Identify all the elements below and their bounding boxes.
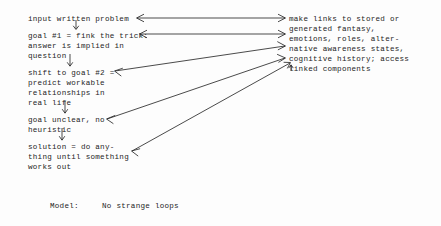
node-goal-1-line-3: question bbox=[28, 51, 66, 61]
node-components-line-5: cognitive history; access bbox=[289, 54, 409, 64]
node-goal-unclear-line-2: heuristic bbox=[28, 125, 71, 135]
diagram-canvas: input written problem goal #1 = fink the… bbox=[0, 0, 441, 226]
arrow-solution-components bbox=[132, 62, 291, 156]
node-goal-1-line-2: answer is implied in bbox=[28, 41, 124, 51]
node-goal-2-line-2: predict workable bbox=[28, 78, 105, 88]
node-goal-2-line-4: real life bbox=[28, 98, 71, 108]
node-components-line-2: generated fantasy, bbox=[289, 24, 376, 34]
node-goal-unclear-line-1: goal unclear, no bbox=[28, 115, 105, 125]
arrow-goal1-components bbox=[140, 30, 286, 38]
arrow-goal-unclear-components bbox=[107, 54, 286, 123]
model-label: Model: bbox=[50, 201, 102, 212]
node-solution-line-3: works out bbox=[28, 162, 71, 172]
node-components-line-4: native awareness states, bbox=[289, 44, 404, 54]
node-input-written-problem: input written problem bbox=[28, 14, 129, 24]
model-item-1: No strange loops bbox=[102, 201, 179, 212]
node-goal-2-line-3: relationships in bbox=[28, 88, 105, 98]
node-solution-line-1: solution = do any- bbox=[28, 142, 115, 152]
node-components-line-1: make links to stored or bbox=[289, 14, 400, 24]
node-goal-2-line-1: shift to goal #2 = bbox=[28, 68, 115, 78]
arrow-goal2-components bbox=[115, 42, 286, 77]
arrow-goal1-to-goal2 bbox=[67, 54, 73, 66]
model-block: Model: No strange loops Multiple goals N… bbox=[50, 180, 241, 226]
node-components-line-3: emotions, roles, alter- bbox=[289, 34, 400, 44]
node-solution-line-2: thing until something bbox=[28, 152, 129, 162]
model-row: Model: No strange loops bbox=[50, 201, 241, 212]
node-goal-1-line-1: goal #1 = fink the trick: bbox=[28, 31, 148, 41]
node-components-line-6: linked components bbox=[289, 64, 371, 74]
arrow-input-components bbox=[137, 14, 286, 22]
